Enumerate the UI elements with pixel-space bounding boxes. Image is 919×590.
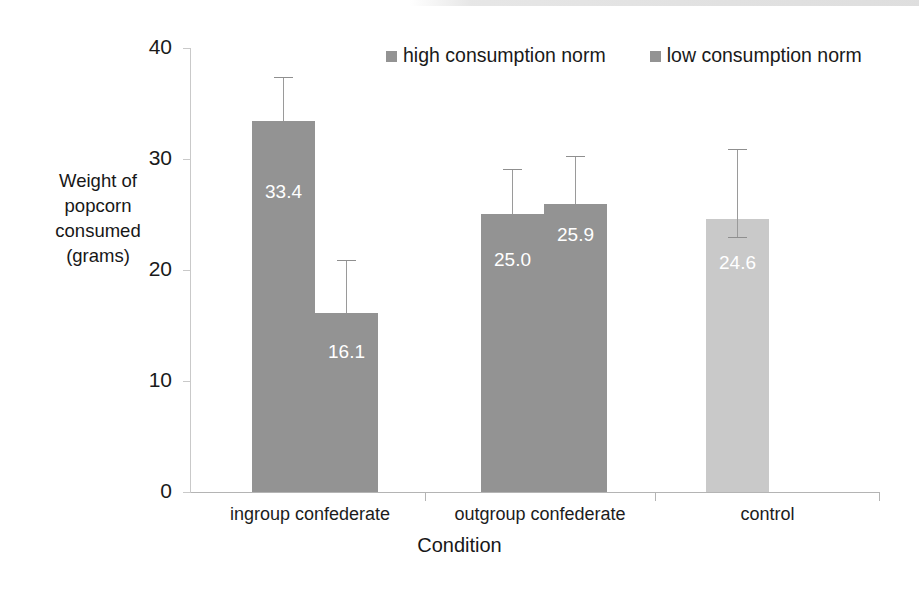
bar-value-label: 25.9	[544, 224, 607, 246]
error-bar-cap	[274, 77, 293, 78]
error-bar-cap	[728, 149, 747, 150]
bar-value-label: 24.6	[706, 252, 769, 274]
bar-outgroup-high[interactable]: 25.0	[481, 214, 544, 492]
y-axis-tick-label: 40	[149, 35, 172, 59]
bar-value-label: 33.4	[252, 181, 315, 203]
y-axis-tick-label: 30	[149, 146, 172, 170]
error-bar-control	[737, 149, 738, 237]
x-axis-label-outgroup: outgroup confederate	[425, 504, 655, 525]
x-axis-divider	[425, 492, 426, 501]
x-axis-divider	[655, 492, 656, 501]
y-axis-title: Weight of popcorn consumed (grams)	[34, 168, 162, 268]
error-bar-cap	[566, 156, 585, 157]
bar-control[interactable]: 24.6	[706, 219, 769, 492]
x-axis-divider	[879, 492, 880, 501]
error-bar-ingroup-low	[346, 260, 347, 313]
y-axis-tick-label: 10	[149, 368, 172, 392]
x-axis-label-control: control	[655, 504, 880, 525]
error-bar-outgroup-low	[575, 156, 576, 204]
x-axis-line	[190, 492, 880, 493]
y-axis-title-line: Weight of	[34, 168, 162, 193]
y-axis-title-line: (grams)	[34, 243, 162, 268]
error-bar-cap	[503, 169, 522, 170]
bar-ingroup-high[interactable]: 33.4	[252, 121, 315, 492]
bar-outgroup-low[interactable]: 25.9	[544, 204, 607, 492]
y-axis-title-line: consumed	[34, 218, 162, 243]
error-bar-cap	[728, 237, 747, 238]
y-axis-tick: 0	[183, 492, 191, 493]
error-bar-outgroup-high	[512, 169, 513, 214]
bar-value-label: 16.1	[315, 341, 378, 363]
bar-ingroup-low[interactable]: 16.1	[315, 313, 378, 492]
y-axis-title-line: popcorn	[34, 193, 162, 218]
x-axis-label-ingroup: ingroup confederate	[195, 504, 425, 525]
scan-artifact	[410, 0, 919, 6]
y-axis-tick-label: 20	[149, 257, 172, 281]
error-bar-ingroup-high	[283, 77, 284, 121]
bar-value-label: 25.0	[481, 249, 544, 271]
x-axis-title: Condition	[0, 534, 919, 557]
bars-layer: 33.4 16.1 25.0 25.9 24.6	[190, 48, 880, 492]
error-bar-cap	[337, 260, 356, 261]
y-axis-tick-label: 0	[160, 479, 172, 503]
